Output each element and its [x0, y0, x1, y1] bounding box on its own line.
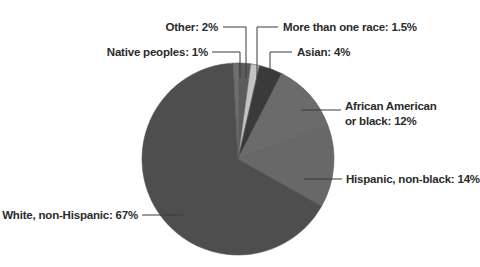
pie-wedges: [142, 63, 334, 255]
label-african-american-line1: African American: [345, 100, 437, 112]
label-native-peoples: Native peoples: 1%: [107, 46, 208, 58]
pie-chart: Other: 2% More than one race: 1.5% Nativ…: [0, 0, 480, 267]
label-hispanic: Hispanic, non-black: 14%: [346, 173, 480, 185]
label-white: White, non-Hispanic: 67%: [2, 209, 138, 221]
label-other: Other: 2%: [165, 21, 218, 33]
label-more-than-one-race: More than one race: 1.5%: [283, 21, 417, 33]
label-african-american-line2: or black: 12%: [345, 115, 417, 127]
label-asian: Asian: 4%: [297, 46, 350, 58]
